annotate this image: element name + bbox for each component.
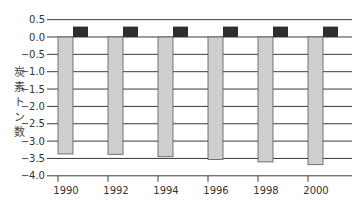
x-tick-label: 1990 [53,185,78,196]
x-tick-label: 1994 [153,185,178,196]
y-tick-label: −4.0 [21,170,45,181]
y-label-char: 素 [14,81,25,94]
bar-positive [73,27,88,37]
bar-positive [223,27,238,37]
y-label-char: 数 [14,126,25,139]
bar-positive [323,27,338,37]
bar-negative [208,37,223,159]
y-label-char: ト [14,96,25,109]
gridlines [47,20,352,176]
x-tick-label: 2000 [303,185,328,196]
y-tick-label: −3.5 [21,153,45,164]
bar-negative [58,37,73,154]
bar-negative [308,37,323,165]
bar-negative [158,37,173,157]
x-tick-label: 1998 [253,185,278,196]
y-label-char: 炭 [14,66,25,79]
bars [58,27,338,165]
y-label-char: ン [14,111,25,124]
y-tick-label: 0.5 [29,14,45,25]
bar-negative [258,37,273,162]
bar-positive [273,27,288,37]
y-tick-label: −0.5 [21,49,45,60]
bar-negative [108,37,123,154]
y-axis-label: 炭素トン数 [14,66,25,139]
bar-chart: 0.50.0−0.5−1.0−1.5−2.0−2.5−3.0−3.5−4.0 1… [0,0,363,212]
y-tick-label: 0.0 [29,32,45,43]
x-axis: 199019921994199619982000 [53,176,328,196]
bar-positive [173,27,188,37]
bar-positive [123,27,138,37]
x-tick-label: 1996 [203,185,228,196]
x-tick-label: 1992 [103,185,128,196]
